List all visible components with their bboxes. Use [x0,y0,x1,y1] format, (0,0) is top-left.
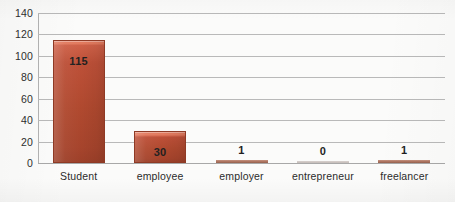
category-label-student: Student [38,170,119,182]
plot-area: 11530101 [38,13,445,163]
y-tick-label-80: 80 [2,71,33,83]
category-label-employer: employer [201,170,282,182]
bar-slot: 0 [297,13,349,163]
bar: 30 [134,131,186,163]
bar-slot: 1 [216,13,268,163]
category-label-freelancer: freelancer [364,170,445,182]
y-axis-tick-labels: 140120100806040200 [0,13,33,163]
bar-value-label: 0 [297,145,349,157]
x-axis-category-labels: Studentemployeeemployerentrepreneurfreel… [38,170,445,188]
y-tick-label-20: 20 [2,136,33,148]
y-tick-label-40: 40 [2,114,33,126]
category-label-entrepreneur: entrepreneur [282,170,363,182]
bar-chart-screenshot: 140120100806040200 11530101 Studentemplo… [0,0,455,202]
bar-slot: 115 [53,13,105,163]
y-tick-label-60: 60 [2,93,33,105]
bar [297,161,349,163]
bar: 115 [53,40,105,163]
bar-value-label: 115 [54,55,104,67]
category-label-employee: employee [119,170,200,182]
bar [216,160,268,163]
y-tick-label-140: 140 [2,7,33,19]
bar-value-label: 1 [216,144,268,156]
bar-value-label: 1 [378,144,430,156]
bar [378,160,430,163]
y-tick-label-0: 0 [2,157,33,169]
bar-slot: 30 [134,13,186,163]
gridline-0 [38,163,445,164]
bar-value-label: 30 [135,146,185,158]
y-tick-label-120: 120 [2,28,33,40]
bar-slot: 1 [378,13,430,163]
y-tick-label-100: 100 [2,50,33,62]
